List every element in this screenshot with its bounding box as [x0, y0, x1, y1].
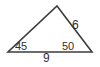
- triangle-svg: [0, 0, 100, 67]
- angle-label-right: 50: [62, 41, 74, 52]
- angle-label-left: 45: [15, 41, 27, 52]
- side-label-right: 6: [72, 19, 79, 31]
- triangle-diagram: 45 50 6 9: [0, 0, 100, 67]
- side-label-bottom: 9: [43, 52, 50, 64]
